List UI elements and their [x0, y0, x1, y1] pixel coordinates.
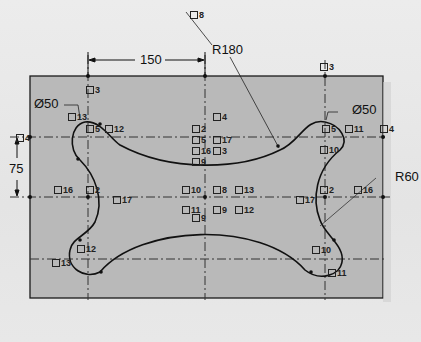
- relation-box-icon: [182, 206, 190, 214]
- relation-box-icon: [192, 136, 200, 144]
- relation-tag[interactable]: 3: [86, 85, 100, 95]
- relation-tag[interactable]: 13: [68, 112, 87, 122]
- relation-box-icon: [354, 186, 362, 194]
- dimension-diameter-left-text[interactable]: Ø50: [34, 97, 59, 111]
- relation-tag[interactable]: 10: [182, 185, 201, 195]
- relation-tag[interactable]: 9: [192, 157, 206, 167]
- relation-box-icon: [213, 113, 221, 121]
- relation-box-icon: [213, 147, 221, 155]
- relation-box-icon: [320, 63, 328, 71]
- relation-box-icon: [192, 214, 200, 222]
- relation-box-icon: [68, 113, 76, 121]
- relation-tag[interactable]: 2: [86, 185, 100, 195]
- relation-box-icon: [16, 134, 24, 142]
- relation-tag[interactable]: 8: [213, 185, 227, 195]
- relation-box-icon: [190, 11, 198, 19]
- relation-box-icon: [235, 206, 243, 214]
- relation-tag[interactable]: 2: [192, 124, 206, 134]
- relation-tag[interactable]: 16: [54, 185, 73, 195]
- relation-tag[interactable]: 16: [192, 146, 211, 156]
- relation-tag[interactable]: 16: [354, 185, 373, 195]
- relation-tag[interactable]: 8: [190, 10, 204, 20]
- relation-box-icon: [113, 196, 121, 204]
- relation-tag[interactable]: 17: [296, 195, 315, 205]
- relation-tag[interactable]: 9: [213, 205, 227, 215]
- relation-box-icon: [213, 186, 221, 194]
- relation-tag[interactable]: 2: [320, 185, 334, 195]
- relation-box-icon: [322, 125, 330, 133]
- relation-box-icon: [192, 147, 200, 155]
- relation-tag[interactable]: 4: [213, 112, 227, 122]
- relation-tag[interactable]: 10: [312, 245, 331, 255]
- relation-tag[interactable]: 5: [192, 135, 206, 145]
- relation-tag[interactable]: 17: [113, 195, 132, 205]
- relation-tag[interactable]: 11: [328, 268, 347, 278]
- relation-tag[interactable]: 9: [192, 213, 206, 223]
- relation-box-icon: [213, 206, 221, 214]
- relation-box-icon: [86, 186, 94, 194]
- relation-box-icon: [345, 125, 353, 133]
- relation-box-icon: [328, 269, 336, 277]
- relation-tag[interactable]: 5: [322, 124, 336, 134]
- relation-box-icon: [86, 86, 94, 94]
- relation-tag[interactable]: 12: [105, 124, 124, 134]
- relation-box-icon: [54, 186, 62, 194]
- dimension-diameter-right-text[interactable]: Ø50: [352, 103, 377, 117]
- relation-box-icon: [320, 186, 328, 194]
- relation-tag[interactable]: 3: [213, 146, 227, 156]
- dimension-r180-text[interactable]: R180: [212, 43, 243, 57]
- relation-tag[interactable]: 3: [320, 62, 334, 72]
- relation-tag[interactable]: 5: [86, 124, 100, 134]
- relation-box-icon: [182, 186, 190, 194]
- dimension-r60-text[interactable]: R60: [395, 170, 419, 184]
- relation-tag[interactable]: 13: [52, 258, 71, 268]
- relation-tag[interactable]: 4: [380, 124, 394, 134]
- relation-tag[interactable]: 11: [345, 124, 364, 134]
- relation-box-icon: [105, 125, 113, 133]
- relation-tag[interactable]: 13: [235, 185, 254, 195]
- relation-box-icon: [52, 259, 60, 267]
- relation-box-icon: [192, 158, 200, 166]
- relation-box-icon: [77, 245, 85, 253]
- relation-box-icon: [192, 125, 200, 133]
- sketch-geometry: [0, 0, 421, 342]
- relation-box-icon: [296, 196, 304, 204]
- relation-tag[interactable]: 12: [77, 244, 96, 254]
- relation-tag[interactable]: 10: [320, 145, 339, 155]
- relation-box-icon: [235, 186, 243, 194]
- dimension-75-text[interactable]: 75: [9, 162, 23, 176]
- relation-tag[interactable]: 17: [213, 135, 232, 145]
- dimension-150-text[interactable]: 150: [140, 53, 162, 67]
- relation-box-icon: [320, 146, 328, 154]
- relation-box-icon: [213, 136, 221, 144]
- relation-box-icon: [312, 246, 320, 254]
- relation-box-icon: [380, 125, 388, 133]
- relation-box-icon: [86, 125, 94, 133]
- cad-sketch-canvas: 150 R180 Ø50 Ø50 75 R60 8 3 3 13 5 12 4 …: [0, 0, 421, 342]
- relation-tag[interactable]: 4: [16, 133, 30, 143]
- relation-tag[interactable]: 12: [235, 205, 254, 215]
